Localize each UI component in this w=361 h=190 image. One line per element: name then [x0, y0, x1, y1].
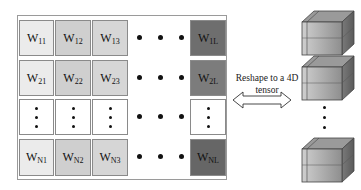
cell-subscript: 1L [209, 37, 218, 46]
cell-base: W [198, 71, 209, 86]
vertical-ellipsis-cell [190, 99, 226, 135]
cell-subscript: NL [208, 156, 219, 165]
tensor-cube-icon [300, 135, 358, 183]
matrix-cell-wn2: WN2 [55, 139, 91, 176]
matrix-cell-w23: W23 [92, 60, 128, 96]
matrix-cell-w22: W22 [55, 60, 91, 96]
horizontal-ellipsis [137, 154, 184, 159]
cell-subscript: 23 [112, 77, 120, 86]
cell-base: W [99, 150, 110, 165]
tensor-vertical-ellipsis [323, 106, 326, 129]
weight-matrix: W11 W12 W13 W1L W21 W22 W23 W2L WN1 WN2 … [17, 15, 227, 180]
tensor-cube-icon [300, 53, 358, 101]
tensor-cube-icon [300, 8, 358, 56]
cell-base: W [63, 71, 74, 86]
cell-subscript: 12 [75, 37, 83, 46]
matrix-cell-w11: W11 [19, 20, 54, 56]
matrix-cell-w1l: W1L [190, 20, 226, 56]
matrix-cell-wnl: WNL [190, 139, 226, 176]
horizontal-ellipsis [137, 35, 184, 40]
cell-subscript: 21 [38, 77, 46, 86]
cell-base: W [27, 31, 38, 46]
matrix-cell-w21: W21 [19, 60, 54, 96]
cell-base: W [100, 31, 111, 46]
matrix-cell-wn1: WN1 [19, 139, 54, 176]
cell-subscript: 22 [75, 77, 83, 86]
cell-subscript: 2L [209, 77, 218, 86]
cell-base: W [197, 150, 208, 165]
vertical-ellipsis-cell [19, 99, 54, 135]
cell-subscript: N2 [74, 156, 84, 165]
cell-base: W [62, 150, 73, 165]
cell-subscript: N3 [111, 156, 121, 165]
reshape-label-line1: Reshape to a 4D [232, 72, 302, 84]
matrix-cell-w12: W12 [55, 20, 91, 56]
cell-base: W [100, 71, 111, 86]
cell-base: W [198, 31, 209, 46]
matrix-cell-w2l: W2L [190, 60, 226, 96]
cell-base: W [63, 31, 74, 46]
cell-base: W [26, 150, 37, 165]
double-arrow-icon [232, 91, 292, 109]
cell-subscript: N1 [37, 156, 47, 165]
cell-subscript: 11 [38, 37, 46, 46]
cell-subscript: 13 [112, 37, 120, 46]
vertical-ellipsis-cell [92, 99, 128, 135]
horizontal-ellipsis [137, 114, 184, 119]
matrix-cell-w13: W13 [92, 20, 128, 56]
cell-base: W [27, 71, 38, 86]
horizontal-ellipsis [137, 75, 184, 80]
matrix-cell-wn3: WN3 [92, 139, 128, 176]
vertical-ellipsis-cell [55, 99, 91, 135]
